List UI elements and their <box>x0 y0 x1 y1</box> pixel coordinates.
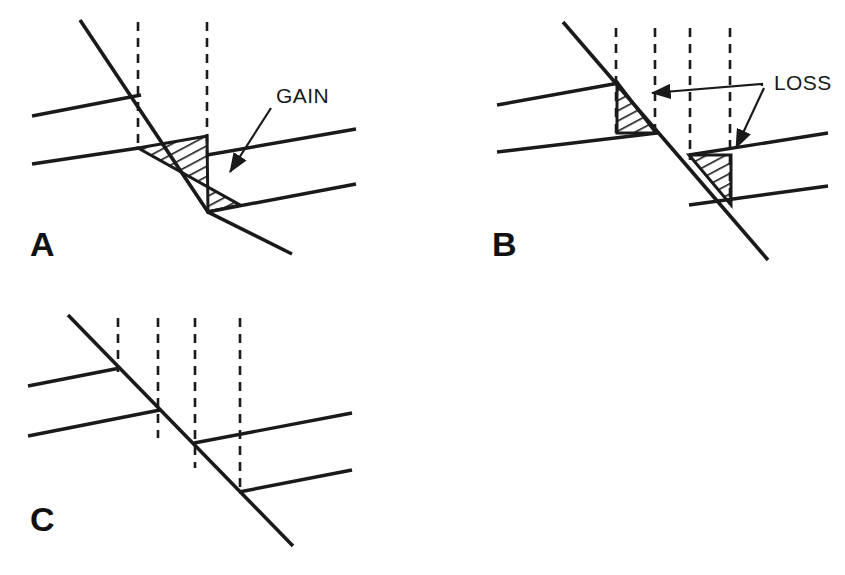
panel-b-loss-label: LOSS <box>774 71 832 94</box>
panel-c-dashed-lines <box>118 318 240 492</box>
panel-a-gain-label: GAIN <box>276 84 329 107</box>
panel-c: C <box>28 315 352 546</box>
panel-b-loss-leader-arrows <box>652 84 764 148</box>
panel-b: LOSS B <box>492 22 832 263</box>
panel-c-bed-lines-left <box>28 368 160 436</box>
panel-a-hatched-gain-region <box>138 136 240 212</box>
figure-canvas: GAIN A <box>0 0 845 575</box>
fault-diagram-svg: GAIN A <box>0 0 845 575</box>
panel-c-letter-label: C <box>30 500 55 538</box>
panel-a: GAIN A <box>30 20 356 263</box>
panel-c-bed-lines-right <box>194 413 352 492</box>
panel-a-letter-label: A <box>30 225 55 263</box>
panel-a-fault-line <box>80 20 292 254</box>
panel-a-bed-lines-left <box>32 95 141 164</box>
panel-a-gain-leader-arrow <box>230 108 271 172</box>
panel-b-loss-wedge-lower <box>689 155 731 205</box>
panel-b-hatched-loss-regions <box>617 82 731 205</box>
panel-b-letter-label: B <box>492 225 517 263</box>
